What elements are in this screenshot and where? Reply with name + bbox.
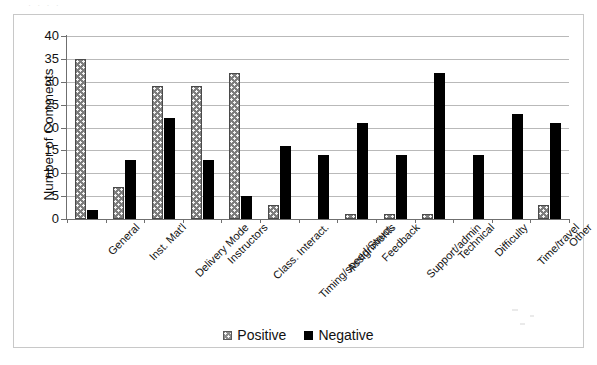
bar-negative bbox=[87, 210, 98, 219]
y-axis-tick bbox=[61, 173, 67, 174]
scan-edge-artifact: · · · · bbox=[0, 0, 597, 12]
axis-baseline bbox=[67, 219, 569, 220]
bar-positive bbox=[538, 205, 549, 219]
legend-label: Negative bbox=[318, 327, 373, 343]
x-axis-category-label: Inst. Mat'l bbox=[147, 221, 189, 263]
bar-positive bbox=[345, 214, 356, 219]
bar-negative bbox=[318, 155, 329, 219]
bar-positive bbox=[384, 214, 395, 219]
x-axis-category-label: Class. Interact. bbox=[270, 221, 330, 281]
bar-group bbox=[221, 36, 260, 219]
bar-negative bbox=[473, 155, 484, 219]
bar-negative bbox=[280, 146, 291, 219]
y-axis-tick bbox=[61, 128, 67, 129]
y-axis-tick bbox=[61, 82, 67, 83]
legend-item-negative[interactable]: Negative bbox=[304, 327, 373, 343]
bar-group bbox=[183, 36, 222, 219]
bar-negative bbox=[164, 118, 175, 219]
plot-area bbox=[67, 36, 569, 219]
bar-group bbox=[376, 36, 415, 219]
bar-negative bbox=[434, 73, 445, 219]
bar-negative bbox=[357, 123, 368, 219]
bar-negative bbox=[550, 123, 561, 219]
bar-group bbox=[67, 36, 106, 219]
scan-speckle bbox=[512, 309, 518, 311]
bar-group bbox=[530, 36, 569, 219]
bar-group bbox=[260, 36, 299, 219]
bar-positive bbox=[75, 59, 86, 219]
bar-positive bbox=[268, 205, 279, 219]
y-axis-tick bbox=[61, 196, 67, 197]
bar-negative bbox=[241, 196, 252, 219]
bar-group bbox=[337, 36, 376, 219]
y-axis-title: Number of Comments bbox=[41, 45, 56, 225]
bar-group bbox=[453, 36, 492, 219]
chart-legend: PositiveNegative bbox=[14, 327, 583, 343]
bar-positive bbox=[152, 86, 163, 219]
y-axis-tick bbox=[61, 105, 67, 106]
bar-negative bbox=[125, 160, 136, 219]
legend-swatch-negative-icon bbox=[304, 331, 313, 340]
bar-positive bbox=[191, 86, 202, 219]
bar-positive bbox=[422, 214, 433, 219]
bar-group bbox=[415, 36, 454, 219]
y-axis-tick-label: 40 bbox=[45, 29, 59, 42]
bar-negative bbox=[396, 155, 407, 219]
y-axis-tick bbox=[61, 219, 67, 220]
plot-inner bbox=[67, 36, 569, 219]
scan-speckle bbox=[520, 323, 525, 325]
chart-frame: 0510152025303540 Number of Comments Gene… bbox=[13, 14, 584, 348]
bar-positive bbox=[229, 73, 240, 219]
legend-label: Positive bbox=[237, 327, 286, 343]
y-axis-tick bbox=[61, 150, 67, 151]
y-axis-tick bbox=[61, 36, 67, 37]
x-axis-category-label: General bbox=[106, 221, 142, 257]
legend-swatch-positive-icon bbox=[223, 331, 232, 340]
bar-positive bbox=[113, 187, 124, 219]
bar-negative bbox=[203, 160, 214, 219]
x-axis-category-label: Difficulty bbox=[493, 221, 531, 259]
bar-group bbox=[144, 36, 183, 219]
bar-group bbox=[106, 36, 145, 219]
bar-negative bbox=[512, 114, 523, 219]
legend-item-positive[interactable]: Positive bbox=[223, 327, 286, 343]
x-axis-category-labels: GeneralInst. Mat'lDelivery ModeInstructo… bbox=[67, 221, 569, 316]
y-axis-tick bbox=[61, 59, 67, 60]
bar-group bbox=[299, 36, 338, 219]
scan-speckle bbox=[530, 315, 534, 317]
bar-group bbox=[492, 36, 531, 219]
